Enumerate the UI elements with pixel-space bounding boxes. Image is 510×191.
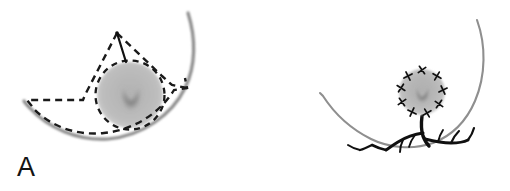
round-gray-mass bbox=[97, 62, 163, 128]
panel-a: A bbox=[0, 0, 255, 191]
apex-vertex-marker bbox=[115, 31, 119, 35]
figure-container: A bbox=[0, 0, 510, 191]
panel-a-label: A bbox=[17, 154, 35, 181]
panel-b: B bbox=[255, 0, 510, 191]
panel-a-graphic bbox=[0, 0, 255, 191]
panel-b-graphic bbox=[255, 0, 510, 191]
